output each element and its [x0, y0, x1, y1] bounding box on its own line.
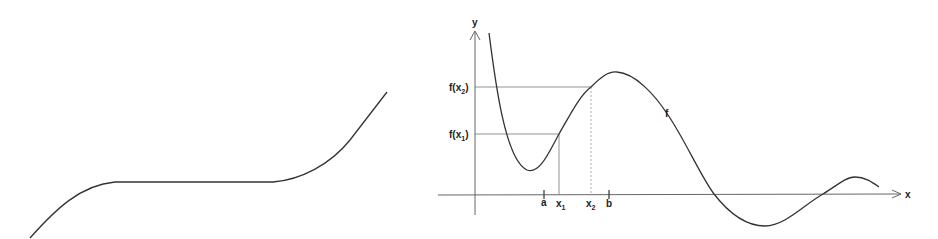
diagram-canvas: y x f f(x2) f(x1) a x1 x2 b	[0, 0, 938, 239]
right-figure: y x f f(x2) f(x1) a x1 x2 b	[438, 17, 911, 226]
label-a: a	[541, 197, 547, 208]
label-x1: x1	[556, 198, 566, 211]
label-b: b	[606, 198, 612, 209]
y-axis-label: y	[472, 17, 478, 28]
left-figure	[30, 92, 387, 238]
curve-f	[489, 33, 879, 226]
x-axis	[438, 194, 901, 195]
label-f-x1: f(x1)	[449, 129, 468, 142]
label-x2: x2	[586, 198, 596, 211]
curve-f-label: f	[665, 108, 669, 119]
label-f-x2: f(x2)	[449, 82, 468, 95]
plateau-curve	[30, 92, 387, 238]
x-axis-label: x	[905, 189, 911, 200]
